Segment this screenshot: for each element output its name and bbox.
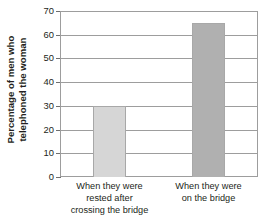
x-axis-category-label-line: on the bridge	[160, 193, 257, 205]
x-axis-category-label: When they wereon the bridge	[160, 181, 257, 205]
y-axis-tick-labels: 010203040506070	[32, 0, 54, 224]
y-axis-tick-label: 30	[32, 101, 54, 111]
y-axis-tick-label: 70	[32, 6, 54, 16]
bar[interactable]	[93, 106, 126, 177]
x-axis-category-label-line: crossing the bridge	[61, 205, 158, 217]
y-axis-tick-label: 40	[32, 77, 54, 87]
bars-layer	[60, 11, 258, 177]
x-axis-category-labels: When they wererested aftercrossing the b…	[60, 181, 258, 224]
y-axis-tick-mark	[56, 177, 61, 178]
y-axis-title-line-2: telephoned the woman	[17, 36, 29, 144]
y-axis-title: Percentage of men who telephoned the wom…	[0, 0, 34, 180]
y-axis-tick-label: 60	[32, 30, 54, 40]
y-axis-tick-label: 10	[32, 148, 54, 158]
x-axis-category-label: When they wererested aftercrossing the b…	[61, 181, 158, 216]
y-axis-tick-label: 20	[32, 125, 54, 135]
bar-chart: Percentage of men who telephoned the wom…	[0, 0, 267, 224]
y-axis-tick-label: 50	[32, 53, 54, 63]
x-axis-category-label-line: rested after	[61, 193, 158, 205]
y-axis-title-line-1: Percentage of men who	[5, 36, 17, 144]
y-axis-tick-label: 0	[32, 172, 54, 182]
x-axis-category-label-line: When they were	[61, 181, 158, 193]
x-axis-category-label-line: When they were	[160, 181, 257, 193]
bar[interactable]	[192, 23, 225, 177]
